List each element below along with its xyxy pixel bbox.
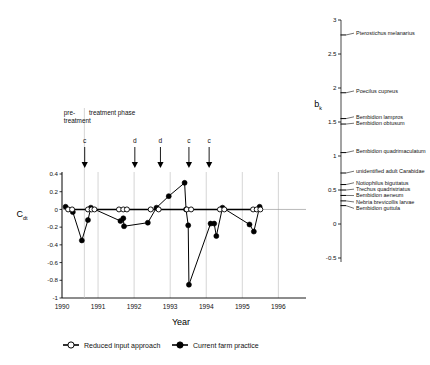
species-label-7: Trechus quadristriatus	[356, 186, 410, 192]
y-axis-tick-label: -0.8	[47, 276, 58, 283]
data-point-current-practice	[186, 282, 191, 287]
y-axis-tick-label: 0.4	[49, 170, 58, 177]
species-label-8: Bembidion aeneum	[356, 192, 404, 198]
species-leader-1	[346, 91, 354, 93]
x-axis-title: Year	[172, 317, 190, 327]
species-leader-9	[346, 201, 354, 202]
species-label-2: Bembidion lampros	[356, 114, 403, 120]
right-panel-tick-label: 2.5	[328, 50, 337, 57]
y-axis-title: Cdt	[17, 209, 28, 221]
legend-label-0: Reduced input approach	[84, 342, 160, 350]
data-point-reduced-input	[258, 207, 263, 212]
x-axis-tick-label: 1993	[163, 303, 178, 310]
species-leader-2	[346, 117, 354, 119]
figure-root: 0.40.20-0.2-0.4-0.6-0.8-1199019911992199…	[0, 0, 430, 365]
series-current-practice-line	[66, 183, 260, 285]
data-point-current-practice	[85, 218, 90, 223]
y-axis-tick-label: 0	[55, 206, 59, 213]
species-label-6: Notiophilus biguttatus	[356, 180, 409, 186]
event-arrow-head-2	[157, 162, 163, 168]
data-point-current-practice	[186, 223, 191, 228]
data-point-current-practice	[121, 216, 126, 221]
data-point-reduced-input	[156, 207, 161, 212]
phase-label-pre-treatment-line2: treatment	[64, 117, 91, 124]
x-axis-tick-label: 1995	[235, 303, 250, 310]
event-arrow-label-2: d	[159, 137, 163, 144]
species-leader-5	[346, 171, 354, 173]
species-label-9: Nebria brevicollis larvae	[356, 199, 414, 205]
species-label-0: Pterostichus melanarius	[356, 30, 415, 36]
phase-label-treatment-phase: treatment phase	[89, 109, 136, 117]
data-point-current-practice	[79, 238, 84, 243]
species-label-1: Poecilus cupreus	[356, 88, 398, 94]
x-axis-tick-label: 1994	[199, 303, 214, 310]
event-arrow-head-0	[82, 162, 88, 168]
data-point-reduced-input	[124, 207, 129, 212]
data-point-current-practice	[251, 229, 256, 234]
y-axis-tick-label: -0.4	[47, 241, 58, 248]
data-point-current-practice	[166, 194, 171, 199]
data-point-current-practice	[182, 180, 187, 185]
event-arrow-head-4	[206, 162, 212, 168]
legend-label-1: Current farm practice	[193, 342, 259, 350]
y-axis-tick-label: -0.6	[47, 259, 58, 266]
data-point-reduced-input	[70, 207, 75, 212]
species-label-5: unidentified adult Carabidae	[356, 168, 425, 174]
species-label-3: Bembidion obtusum	[356, 120, 405, 126]
species-leader-10	[346, 206, 354, 209]
y-axis-tick-label: 0.2	[49, 188, 58, 195]
data-point-current-practice	[122, 224, 127, 229]
x-axis-tick-label: 1990	[55, 303, 70, 310]
right-panel-tick-label: 0	[333, 220, 337, 227]
species-leader-6	[346, 183, 354, 185]
event-arrow-label-4: c	[207, 137, 211, 144]
y-axis-tick-label: -0.2	[47, 223, 58, 230]
legend-marker-filled-circle-1	[177, 342, 183, 348]
species-label-4: Bembidion quadrimaculatum	[356, 148, 426, 154]
event-arrow-label-3: c	[187, 137, 191, 144]
data-point-reduced-input	[92, 207, 97, 212]
data-point-reduced-input	[189, 207, 194, 212]
right-panel-tick-label: 3	[333, 16, 337, 23]
y-axis-tick-label: -1	[52, 294, 58, 301]
svg-text:Cdt: Cdt	[17, 209, 28, 221]
data-point-current-practice	[212, 221, 217, 226]
species-label-10: Bembidion guttula	[356, 205, 401, 211]
right-panel-axis-title: bk	[314, 99, 322, 111]
event-arrow-head-3	[186, 162, 192, 168]
event-arrow-label-0: c	[83, 137, 87, 144]
x-axis-tick-label: 1996	[271, 303, 286, 310]
data-point-reduced-input	[148, 207, 153, 212]
event-arrow-head-1	[132, 162, 138, 168]
species-leader-0	[346, 33, 354, 35]
species-leader-7	[346, 189, 354, 190]
phase-label-pre-treatment: pre-	[64, 109, 75, 117]
x-axis-tick-label: 1992	[127, 303, 142, 310]
figure-canvas: 0.40.20-0.2-0.4-0.6-0.8-1199019911992199…	[0, 0, 430, 365]
right-panel-tick-label: -0.5	[326, 254, 337, 261]
data-point-current-practice	[214, 234, 219, 239]
x-axis-tick-label: 1991	[91, 303, 106, 310]
event-arrow-label-1: d	[133, 137, 137, 144]
species-leader-4	[346, 151, 354, 153]
data-point-current-practice	[145, 220, 150, 225]
right-panel-tick-label: 1.5	[328, 118, 337, 125]
right-panel-tick-label: 2	[333, 84, 337, 91]
data-point-current-practice	[247, 222, 252, 227]
legend-marker-open-circle-0	[68, 342, 74, 348]
data-point-reduced-input	[222, 207, 227, 212]
right-panel-tick-label: 1	[333, 152, 337, 159]
species-leader-3	[346, 123, 354, 124]
right-panel-tick-label: 0.5	[328, 186, 337, 193]
